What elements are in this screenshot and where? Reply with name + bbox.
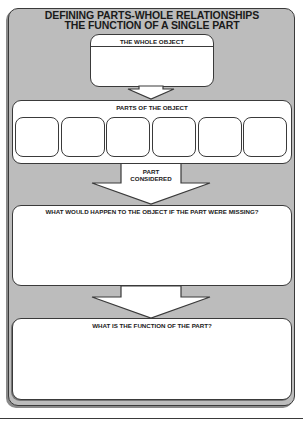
part-function-label: WHAT IS THE FUNCTION OF THE PART? — [13, 322, 291, 329]
page-bottom-rule — [0, 418, 303, 419]
part-function-box[interactable]: WHAT IS THE FUNCTION OF THE PART? — [12, 318, 292, 400]
